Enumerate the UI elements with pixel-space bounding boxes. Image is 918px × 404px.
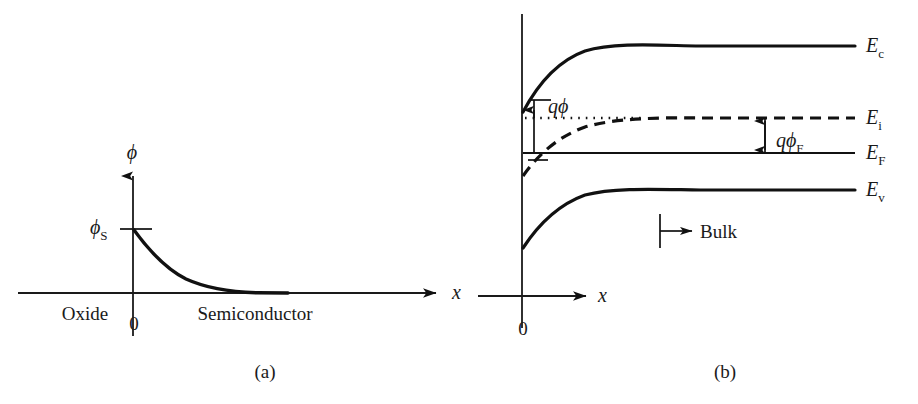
panel-a-caption: (a) [254,361,275,383]
panel-b-label-ei-sub: i [878,118,882,133]
panel-a: ϕ ϕS x 0 Oxide Semiconductor (a) [18,141,461,383]
panel-a-region-label-semiconductor: Semiconductor [197,303,313,324]
panel-b-label-ev-base: E [865,178,878,200]
panel-b-annotation-qphi-base: qϕ [548,95,568,118]
panel-b-label-ef: EF [865,141,885,168]
panel-a-origin-label: 0 [129,313,139,334]
panel-b-bulk-label: Bulk [700,221,737,242]
panel-b-band-ec [523,45,855,112]
panel-a-y-axis-label: ϕ [127,141,137,164]
figure-root: ϕ ϕS x 0 Oxide Semiconductor (a) [0,0,918,404]
panel-b-band-ei [523,118,855,176]
panel-a-phi-s-base: ϕ [90,216,100,239]
panel-b-origin-label: 0 [518,318,528,339]
panel-b-band-ev [523,189,855,248]
panel-b-label-ec: Ec [865,34,884,61]
panel-b-label-ei-base: E [865,106,878,128]
panel-b-x-axis-label: x [597,284,607,306]
panel-b-label-ei: Ei [865,106,882,133]
panel-a-phi-s-sub: S [100,228,107,243]
panel-a-phi-s-label: ϕS [90,216,108,243]
panel-b-caption: (b) [714,361,736,383]
panel-b-annotation-qphif-base: qϕ [776,129,796,152]
panel-a-potential-curve [134,230,288,293]
panel-b-label-ec-sub: c [878,46,884,61]
panel-a-x-axis-label: x [451,281,461,303]
panel-b-label-ef-base: E [865,141,878,163]
panel-a-region-label-oxide: Oxide [62,303,108,324]
panel-b-label-ef-sub: F [878,153,885,168]
panel-b-label-ev: Ev [865,178,885,205]
panel-b: qϕ qϕF Bulk Ec Ei EF Ev [478,14,885,383]
panel-b-label-ev-sub: v [878,190,885,205]
panel-b-label-ec-base: E [865,34,878,56]
panel-b-annotation-qphi: qϕ [548,95,568,118]
panel-b-annotation-qphif-sub: F [796,141,803,156]
figure-svg: ϕ ϕS x 0 Oxide Semiconductor (a) [0,0,918,404]
